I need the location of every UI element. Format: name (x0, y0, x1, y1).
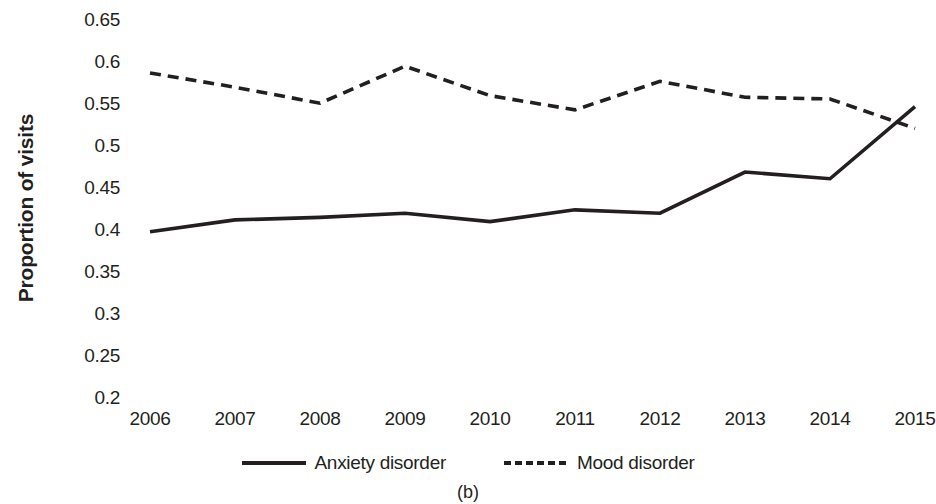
legend-swatch-solid-icon (242, 456, 306, 470)
line-chart-figure: Proportion of visits 0.650.60.550.50.450… (0, 0, 936, 504)
figure-caption: (b) (0, 482, 936, 503)
legend-swatch-dashed-icon (504, 456, 568, 470)
legend-label-mood-disorder: Mood disorder (577, 452, 695, 474)
legend-entry-mood-disorder: Mood disorder (504, 452, 695, 474)
series-line-anxiety-disorder (150, 107, 915, 232)
plot-area (0, 0, 936, 504)
legend-label-anxiety-disorder: Anxiety disorder (315, 452, 446, 474)
chart-legend: Anxiety disorder Mood disorder (0, 452, 936, 474)
legend-entry-anxiety-disorder: Anxiety disorder (242, 452, 446, 474)
series-line-mood-disorder (150, 66, 915, 128)
